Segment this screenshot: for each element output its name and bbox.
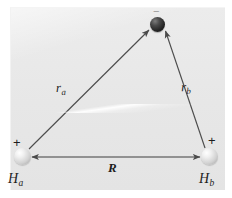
proton-b-sphere bbox=[201, 148, 218, 165]
electron-sphere bbox=[150, 17, 165, 32]
label-H-a-base: H bbox=[8, 171, 18, 186]
label-H-a-subscript: a bbox=[18, 178, 23, 188]
label-r-b-subscript: b bbox=[186, 85, 191, 95]
vector-r-a bbox=[29, 30, 149, 149]
label-r-a: ra bbox=[56, 81, 66, 94]
label-R: R bbox=[108, 161, 117, 174]
charge-sign-electron: − bbox=[153, 6, 159, 17]
label-H-a: Ha bbox=[8, 172, 23, 186]
label-r-b: rb bbox=[181, 80, 191, 93]
charge-sign-proton-b: + bbox=[208, 134, 216, 147]
figure-root: + + − ra rb R Ha Hb bbox=[0, 0, 232, 198]
charge-sign-proton-a: + bbox=[13, 136, 21, 149]
label-H-b-base: H bbox=[199, 171, 209, 186]
proton-a-sphere bbox=[14, 148, 31, 165]
label-H-b-subscript: b bbox=[209, 178, 214, 188]
label-H-b: Hb bbox=[199, 172, 214, 186]
label-r-a-subscript: a bbox=[61, 86, 66, 96]
